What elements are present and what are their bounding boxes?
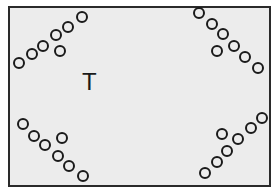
circle-bottom-right <box>199 167 211 179</box>
circle-bottom-right <box>216 128 228 140</box>
circle-top-right <box>252 62 264 74</box>
circle-top-right <box>239 51 251 63</box>
circle-bottom-right <box>245 122 257 134</box>
circle-top-left <box>50 29 62 41</box>
circle-top-left <box>13 57 25 69</box>
circle-top-left <box>37 40 49 52</box>
circle-top-right <box>228 40 240 52</box>
circle-top-left <box>54 45 66 57</box>
circle-bottom-right <box>256 112 268 124</box>
diagram-frame <box>8 6 271 187</box>
circle-bottom-left <box>28 130 40 142</box>
circle-bottom-left <box>56 132 68 144</box>
circle-bottom-left <box>63 160 75 172</box>
center-label: T <box>82 70 97 94</box>
circle-top-right <box>206 18 218 30</box>
circle-top-left <box>26 48 38 60</box>
circle-bottom-left <box>39 139 51 151</box>
circle-bottom-left <box>77 170 89 182</box>
circle-top-left <box>76 11 88 23</box>
circle-bottom-right <box>211 156 223 168</box>
circle-top-right <box>211 45 223 57</box>
circle-bottom-right <box>232 133 244 145</box>
circle-top-left <box>62 21 74 33</box>
circle-bottom-left <box>17 118 29 130</box>
circle-bottom-left <box>52 150 64 162</box>
circle-top-right <box>217 28 229 40</box>
circle-bottom-right <box>221 145 233 157</box>
circle-top-right <box>193 7 205 19</box>
